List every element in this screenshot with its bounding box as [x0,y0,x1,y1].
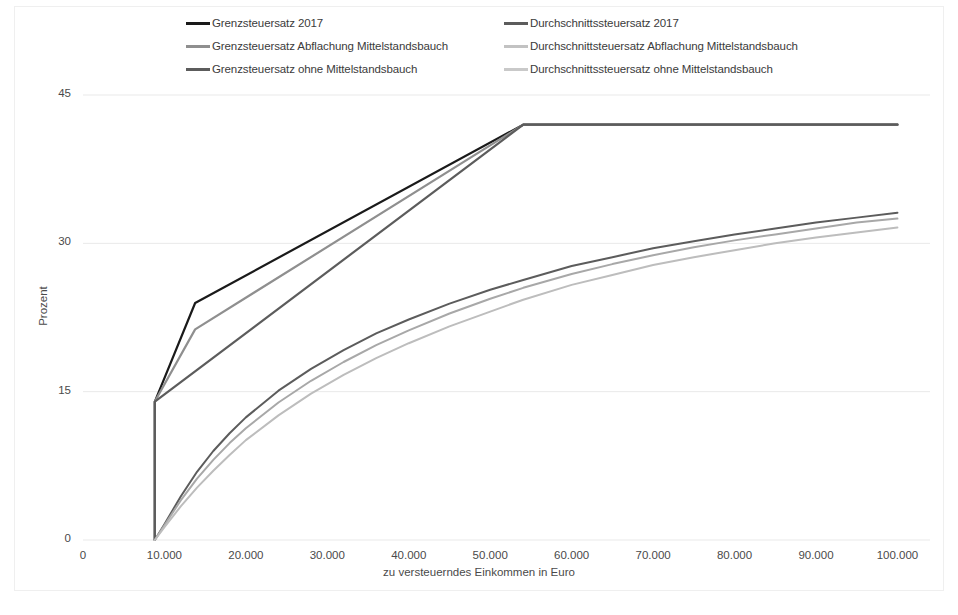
chart-series-line [155,228,898,540]
y-axis-tick-label: 30 [31,235,71,247]
x-axis-tick-label: 90.000 [781,549,851,561]
y-axis-tick-label: 0 [31,532,71,544]
x-axis-tick-label: 100.000 [862,549,932,561]
chart-series-line [155,213,898,540]
y-axis-label: Prozent [37,261,49,351]
x-axis-label: zu versteuerndes Einkommen in Euro [0,566,958,578]
x-axis-tick-label: 20.000 [211,549,281,561]
x-axis-tick-label: 50.000 [455,549,525,561]
chart-canvas [0,0,958,615]
x-axis-tick-label: 30.000 [292,549,362,561]
chart-series-layer [155,125,898,540]
x-axis-tick-label: 80.000 [700,549,770,561]
chart-page: Grenzsteuersatz 2017 Durchschnittssteuer… [0,0,958,615]
chart-series-line [155,219,898,540]
x-axis-tick-label: 0 [48,549,118,561]
y-axis-tick-label: 45 [31,87,71,99]
x-axis-tick-label: 40.000 [374,549,444,561]
y-axis-tick-label: 15 [31,384,71,396]
x-axis-tick-label: 60.000 [537,549,607,561]
chart-plot-area: 0153045 010.00020.00030.00040.00050.0006… [0,0,958,615]
chart-series-line [155,125,898,540]
chart-series-line [155,125,898,540]
chart-series-line [155,125,898,540]
x-axis-tick-label: 70.000 [618,549,688,561]
x-axis-tick-label: 10.000 [129,549,199,561]
